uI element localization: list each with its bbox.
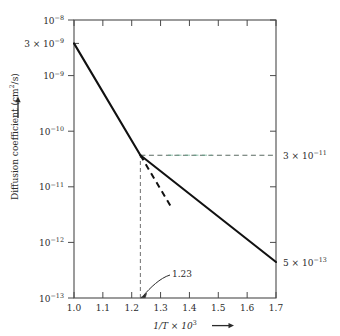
y-axis-title-tail: /s) xyxy=(10,73,20,84)
y-tick-label-3-exp: −11 xyxy=(51,181,65,189)
x-axis-title-exp: 3 xyxy=(193,319,197,327)
svg-text:1/T × 103: 1/T × 103 xyxy=(153,319,197,331)
chart-canvas: 10−8 10−9 10−10 10−11 10−12 10−13 3 × 10… xyxy=(0,0,340,336)
right-upper-callout-mant: 3 × 10 xyxy=(283,151,314,161)
y-tick-label-1-base: 10 xyxy=(43,71,55,81)
y-axis-title: Diffusion coefficient (cm2/s) xyxy=(8,73,20,200)
y-tick-label-2-exp: −10 xyxy=(51,125,65,133)
svg-text:Diffusion coefficient (cm2/s): Diffusion coefficient (cm2/s) xyxy=(8,73,20,200)
x-tick-label-1: 1.1 xyxy=(96,303,110,313)
x-tick-label-6: 1.6 xyxy=(240,303,255,313)
y-tick-label-3-base: 10 xyxy=(39,182,51,192)
y-tick-label-5-base: 10 xyxy=(39,294,51,304)
y-tick-label-4-exp: −12 xyxy=(51,236,65,244)
x-axis-title-base: 1/T × 10 xyxy=(153,321,193,331)
right-upper-callout-exp: −11 xyxy=(313,149,327,157)
x-intercept-callout-label: 1.23 xyxy=(172,269,192,279)
x-tick-label-0: 1.0 xyxy=(67,303,82,313)
y-tick-label-4-base: 10 xyxy=(39,238,51,248)
x-tick-label-2: 1.2 xyxy=(125,303,139,313)
diffusion-coefficient-arrhenius-plot: 10−8 10−9 10−10 10−11 10−12 10−13 3 × 10… xyxy=(0,0,340,336)
x-tick-label-7: 1.7 xyxy=(269,303,284,313)
right-lower-callout-exp: −13 xyxy=(313,256,327,264)
y-tick-label-0-base: 10 xyxy=(43,16,55,26)
plot-background xyxy=(0,0,340,336)
x-tick-label-4: 1.4 xyxy=(182,303,197,313)
left-value-callout-mant: 3 × 10 xyxy=(24,39,55,49)
left-value-callout-exp: −9 xyxy=(55,37,64,45)
x-tick-label-3: 1.3 xyxy=(153,303,168,313)
y-tick-label-1-exp: −9 xyxy=(55,70,64,78)
y-tick-label-5-exp: −13 xyxy=(51,292,65,300)
right-lower-callout-mant: 5 × 10 xyxy=(283,258,314,268)
x-tick-label-5: 1.5 xyxy=(211,303,226,313)
y-tick-label-0-exp: −8 xyxy=(55,14,64,22)
y-tick-label-2-base: 10 xyxy=(39,127,51,137)
